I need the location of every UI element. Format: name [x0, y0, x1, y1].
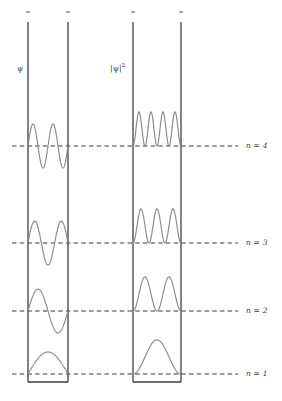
psi-squared-curve-n3 [133, 209, 181, 243]
psi-squared-curve-n4 [133, 112, 181, 146]
infinity-label-2: ∞ [62, 8, 74, 16]
infinity-label-4: ∞ [175, 8, 187, 16]
energy-level-dashed-lines [12, 146, 238, 374]
psi-squared-exponent: 2 [122, 62, 126, 68]
psi-squared-axis-label: |ψ|2 [110, 62, 125, 73]
psi-squared-curve-n2 [133, 277, 181, 311]
figure-canvas [0, 0, 282, 401]
well-walls [28, 22, 181, 382]
quantum-well-figure: ∞∞∞∞ ψ |ψ|2 n = 4n = 3n = 2n = 1 [0, 0, 282, 401]
level-label-n4: n = 4 [246, 141, 268, 150]
psi-axis-label: ψ [17, 64, 23, 73]
infinity-label-1: ∞ [22, 8, 34, 16]
psi-squared-curve-n1 [133, 340, 181, 374]
level-label-n2: n = 2 [246, 306, 268, 315]
level-label-n3: n = 3 [246, 238, 268, 247]
level-label-n1: n = 1 [246, 369, 268, 378]
infinity-label-3: ∞ [127, 8, 139, 16]
psi-curve-n1 [28, 352, 68, 374]
